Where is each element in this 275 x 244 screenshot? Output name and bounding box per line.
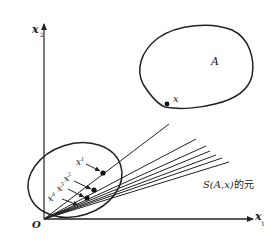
neighborhood-ellipse (18, 131, 132, 229)
x-axis-sub: 1 (261, 220, 265, 227)
sequence-point-x1 (100, 170, 105, 175)
y-axis-label: x (31, 23, 39, 36)
sequence-labels: x1 x2 x3 x4 (46, 156, 84, 204)
label-x1: x1 (76, 156, 84, 167)
rays-caption: S(A,x)的元 (203, 178, 254, 190)
set-a-label: A (210, 55, 219, 68)
boundary-point-x (165, 102, 170, 107)
label-x4: x4 (46, 191, 58, 204)
cone-rays (44, 124, 229, 219)
y-axis-sub: 2 (40, 31, 44, 38)
sequence-point-x2 (91, 187, 96, 192)
origin-label: O (32, 219, 41, 230)
cone-diagram: x 2 x 1 O A x x1 x2 x3 x4 (0, 0, 275, 244)
set-a-boundary (140, 25, 253, 108)
boundary-point-label: x (173, 93, 179, 104)
sequence-point-x3 (84, 195, 89, 200)
label-x2: x2 (62, 171, 74, 184)
